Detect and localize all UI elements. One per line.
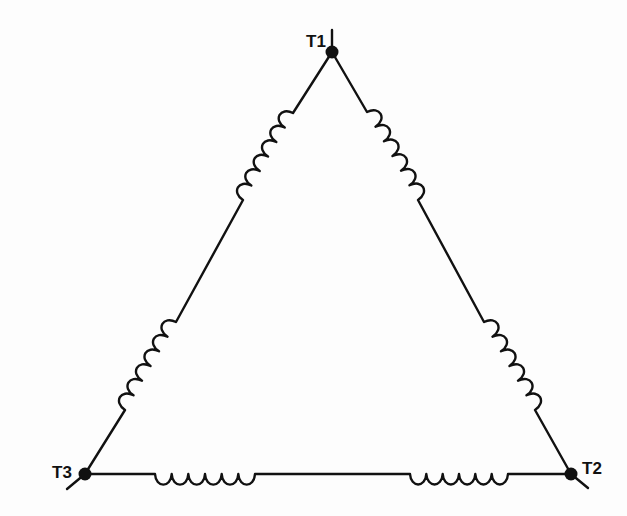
right-side-winding bbox=[332, 52, 571, 474]
terminal-dot-t3 bbox=[79, 468, 92, 481]
terminals: T1T2T3 bbox=[52, 30, 602, 489]
left-side-winding bbox=[85, 52, 332, 474]
terminal-label-t2: T2 bbox=[582, 459, 602, 478]
terminal-dot-t2 bbox=[565, 468, 578, 481]
terminal-label-t1: T1 bbox=[306, 32, 326, 51]
bottom-side-winding bbox=[85, 474, 571, 485]
delta-winding-diagram: T1T2T3 bbox=[0, 0, 627, 516]
terminal-dot-t1 bbox=[326, 46, 339, 59]
terminal-label-t3: T3 bbox=[52, 463, 72, 482]
winding-wires bbox=[85, 52, 571, 485]
